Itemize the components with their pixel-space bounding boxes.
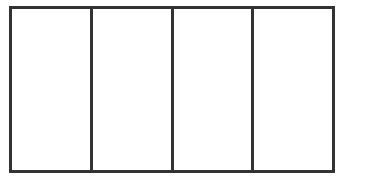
cell-3 (174, 9, 255, 170)
partitioned-rectangle (9, 6, 335, 173)
cell-2 (93, 9, 174, 170)
cell-4 (254, 9, 332, 170)
cell-1 (12, 9, 93, 170)
